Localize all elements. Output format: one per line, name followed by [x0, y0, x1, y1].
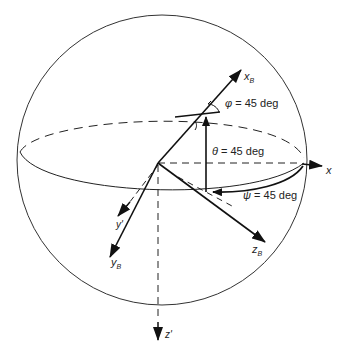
y-prime-label: y'	[115, 219, 124, 230]
z-prime-label: z'	[164, 329, 173, 340]
zB-axis	[158, 163, 265, 242]
sphere	[17, 15, 307, 305]
phi-indicator	[175, 101, 220, 130]
phi-label: φ = 45 deg	[225, 97, 278, 109]
euler-angle-diagram: xB φ = 45 deg θ = 45 deg x ψ = 45 deg y'…	[0, 0, 347, 351]
y-prime-axis	[118, 165, 158, 216]
xB-label: xB	[243, 70, 255, 84]
psi-label: ψ = 45 deg	[243, 189, 297, 201]
theta-label: θ = 45 deg	[212, 145, 264, 157]
zB-label: zB	[251, 243, 263, 257]
x-axis	[158, 163, 322, 166]
x-label: x	[325, 164, 332, 176]
yB-label: yB	[110, 256, 122, 270]
yB-axis	[110, 163, 158, 257]
